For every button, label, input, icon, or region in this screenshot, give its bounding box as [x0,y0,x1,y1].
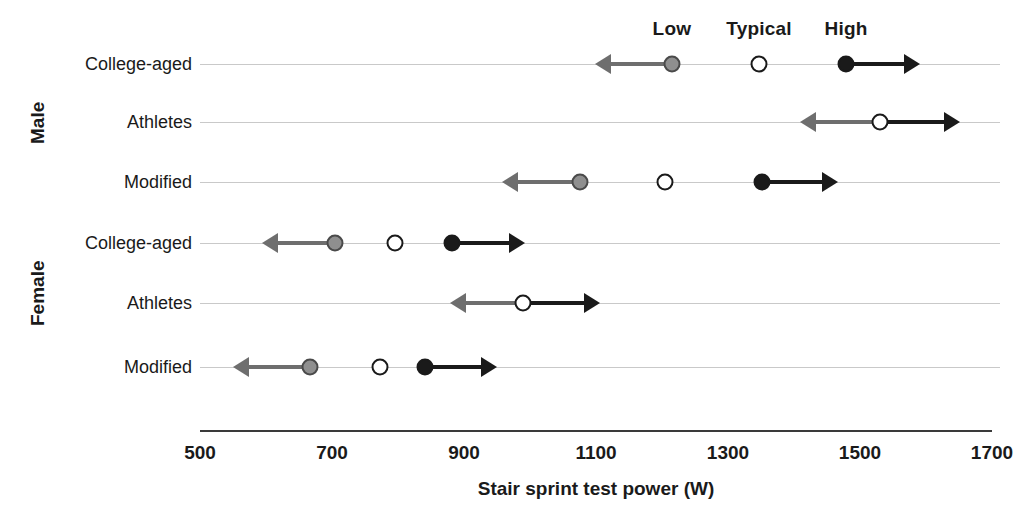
high-arrowhead-row-4 [584,293,600,313]
low-arrowhead-row-3 [262,233,278,253]
typical-marker-row-5 [372,359,389,376]
typical-marker-row-1 [871,114,888,131]
x-tick-label-1700: 1700 [971,442,1013,464]
group-label-text: Male [27,104,49,144]
low-arrowhead-row-2 [502,172,518,192]
x-tick-label-1100: 1100 [575,442,616,464]
category-label-female-college-aged: College-aged [85,233,192,254]
high-range-bar-row-0 [846,62,906,66]
high-arrowhead-row-1 [944,112,960,132]
low-range-bar-row-2 [516,180,580,184]
high-marker-row-5 [417,359,434,376]
low-arrowhead-row-4 [450,293,466,313]
high-range-bar-row-3 [452,241,511,245]
low-arrowhead-row-5 [233,357,249,377]
gridline-row-4 [200,303,1000,304]
high-marker-row-0 [838,56,855,73]
stair-sprint-power-chart: LowTypicalHighCollege-agedAthletesModifi… [0,0,1034,524]
low-marker-row-2 [572,174,589,191]
gridline-row-2 [200,182,1000,183]
typical-marker-row-4 [514,295,531,312]
typical-marker-row-0 [751,56,768,73]
x-axis-line [200,430,992,432]
group-label-male: Male [18,113,58,135]
high-arrowhead-row-0 [904,54,920,74]
group-label-text: Female [27,286,49,326]
high-arrowhead-row-3 [509,233,525,253]
typical-marker-row-3 [386,235,403,252]
high-range-bar-row-5 [425,365,483,369]
category-label-female-modified: Modified [124,357,192,378]
legend-label-typical: Typical [726,18,791,40]
typical-marker-row-2 [657,174,674,191]
x-tick-label-1500: 1500 [839,442,881,464]
x-axis-title: Stair sprint test power (W) [478,478,714,500]
gridline-row-5 [200,367,1000,368]
high-marker-row-3 [444,235,461,252]
legend-label-low: Low [653,18,692,40]
high-marker-row-2 [754,174,771,191]
x-tick-label-500: 500 [184,442,216,464]
high-range-bar-row-1 [880,120,947,124]
x-tick-label-1300: 1300 [707,442,749,464]
low-marker-row-5 [302,359,319,376]
category-label-female-athletes: Athletes [127,293,192,314]
high-arrowhead-row-2 [822,172,838,192]
high-range-bar-row-4 [523,301,586,305]
high-arrowhead-row-5 [481,357,497,377]
legend-label-high: High [825,18,868,40]
high-range-bar-row-2 [762,180,824,184]
group-label-female: Female [18,295,58,317]
category-label-male-athletes: Athletes [127,112,192,133]
x-tick-label-700: 700 [316,442,348,464]
category-label-male-college-aged: College-aged [85,54,192,75]
low-range-bar-row-1 [814,120,880,124]
low-marker-row-0 [663,56,680,73]
low-arrowhead-row-0 [595,54,611,74]
category-label-male-modified: Modified [124,172,192,193]
x-tick-label-900: 900 [448,442,480,464]
low-marker-row-3 [327,235,344,252]
low-arrowhead-row-1 [800,112,816,132]
